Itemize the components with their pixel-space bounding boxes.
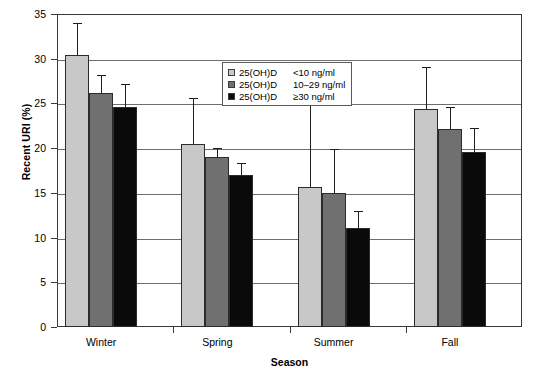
error-bar-stem	[334, 149, 335, 193]
legend-swatch-icon	[228, 81, 235, 88]
bar-spring-series1	[181, 144, 205, 327]
x-axis-title: Season	[57, 356, 522, 368]
bar-spring-series2	[205, 157, 229, 327]
bar-winter-series3	[113, 107, 137, 327]
error-bar-stem	[450, 107, 451, 129]
x-tick-mark	[173, 327, 174, 333]
y-tick-mark	[51, 327, 57, 328]
error-bar-cap	[237, 163, 246, 164]
legend: 25(OH)D<10 ng/ml25(OH)D10–29 ng/ml25(OH)…	[222, 62, 352, 106]
bars-layer	[57, 14, 522, 327]
bar-fall-series1	[414, 109, 438, 327]
y-tick-label: 35	[14, 9, 46, 19]
x-tick-mark	[290, 327, 291, 333]
y-tick-label: 10	[14, 233, 46, 243]
legend-item-label: 25(OH)D	[239, 67, 293, 78]
y-tick-label: 5	[14, 277, 46, 287]
legend-item-label: 25(OH)D	[239, 91, 293, 102]
y-tick-label: 20	[14, 143, 46, 153]
y-tick-label: 30	[14, 54, 46, 64]
y-tick-label: 25	[14, 98, 46, 108]
error-bar-stem	[125, 84, 126, 107]
error-bar-stem	[426, 67, 427, 109]
x-tick-label-summer: Summer	[279, 336, 389, 348]
error-bar-stem	[217, 148, 218, 157]
error-bar-cap	[422, 67, 431, 68]
legend-swatch-icon	[228, 93, 235, 100]
error-bar-cap	[121, 84, 130, 85]
error-bar-stem	[474, 128, 475, 151]
error-bar-cap	[213, 148, 222, 149]
bar-summer-series2	[322, 193, 346, 327]
legend-item-range: ≥30 ng/ml	[293, 91, 335, 102]
bar-summer-series3	[346, 228, 370, 327]
x-tick-label-spring: Spring	[162, 336, 272, 348]
error-bar-cap	[470, 128, 479, 129]
error-bar-cap	[354, 211, 363, 212]
bar-winter-series2	[89, 93, 113, 327]
error-bar-cap	[73, 23, 82, 24]
error-bar-stem	[193, 98, 194, 144]
bar-summer-series1	[298, 187, 322, 327]
error-bar-stem	[241, 163, 242, 175]
bar-chart: Recent URI (%) 05101520253035 WinterSpri…	[0, 0, 537, 377]
y-tick-label: 15	[14, 188, 46, 198]
error-bar-cap	[330, 149, 339, 150]
bar-fall-series3	[462, 152, 486, 327]
legend-swatch-icon	[228, 69, 235, 76]
legend-item-range: <10 ng/ml	[293, 67, 335, 78]
x-tick-mark	[406, 327, 407, 333]
legend-item-2: 25(OH)D10–29 ng/ml	[228, 78, 345, 90]
error-bar-stem	[101, 75, 102, 93]
legend-item-range: 10–29 ng/ml	[293, 79, 345, 90]
legend-item-3: 25(OH)D≥30 ng/ml	[228, 90, 345, 102]
x-tick-label-winter: Winter	[46, 336, 156, 348]
error-bar-cap	[97, 75, 106, 76]
y-tick-label: 0	[14, 322, 46, 332]
x-tick-label-fall: Fall	[395, 336, 505, 348]
bar-fall-series2	[438, 129, 462, 327]
bar-winter-series1	[65, 55, 89, 327]
error-bar-stem	[358, 211, 359, 228]
bar-spring-series3	[229, 175, 253, 327]
error-bar-stem	[310, 98, 311, 187]
legend-item-label: 25(OH)D	[239, 79, 293, 90]
error-bar-cap	[446, 107, 455, 108]
legend-item-1: 25(OH)D<10 ng/ml	[228, 66, 345, 78]
error-bar-cap	[189, 98, 198, 99]
error-bar-stem	[77, 23, 78, 55]
